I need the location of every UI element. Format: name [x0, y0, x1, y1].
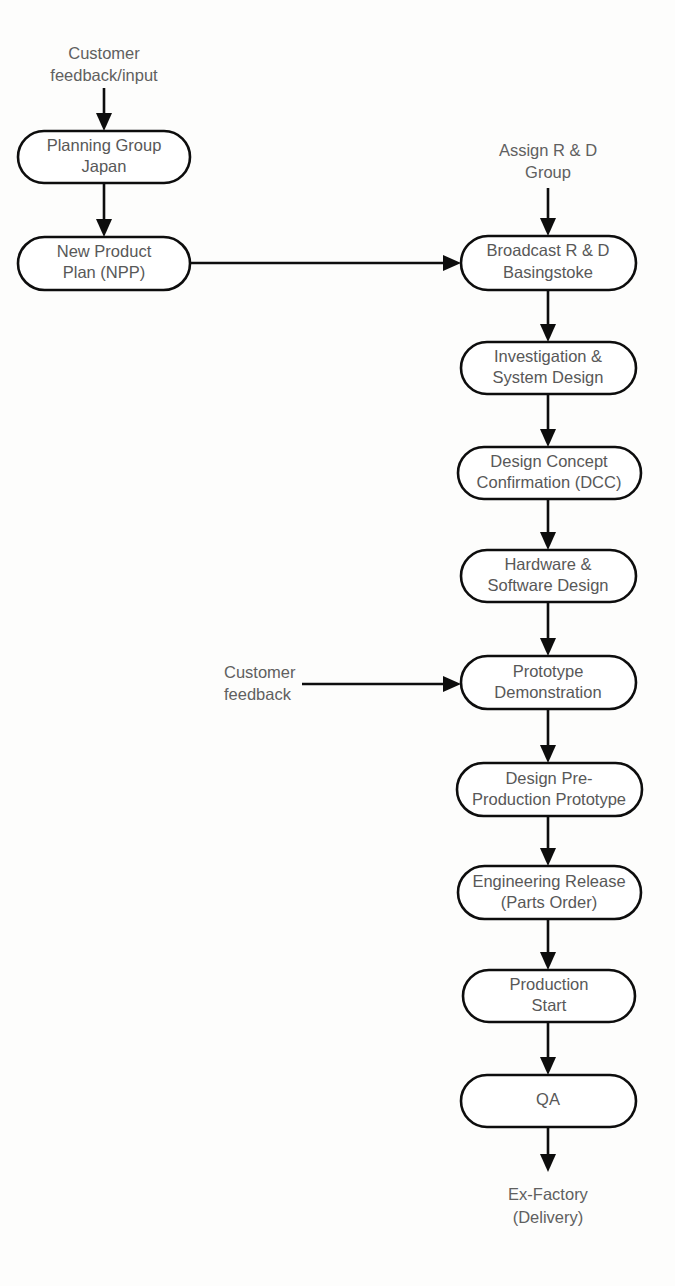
arrowhead-prototype-to-preproduction	[540, 745, 556, 763]
node-production-start-line1: Production	[510, 975, 589, 993]
label-customer-feedback-line1: Customer	[224, 663, 296, 681]
arrowhead-production-to-qa	[540, 1057, 556, 1075]
node-design-concept-confirmation-line2: Confirmation (DCC)	[477, 473, 622, 491]
node-engineering-release-line2: (Parts Order)	[501, 893, 597, 911]
node-investigation-system-design-line2: System Design	[493, 368, 604, 386]
label-assign-rd-group-line2: Group	[525, 163, 571, 181]
arrowhead-dcc-to-hardware	[540, 532, 556, 550]
node-new-product-plan-line1: New Product	[57, 242, 152, 260]
arrowhead-engineering-to-production	[540, 952, 556, 970]
node-qa-line1: QA	[536, 1090, 560, 1108]
label-customer-feedback-input-line1: Customer	[68, 44, 140, 62]
node-hardware-software-design-line1: Hardware &	[504, 555, 591, 573]
arrowhead-npp-to-broadcast	[443, 255, 461, 271]
node-prototype-demonstration-line1: Prototype	[513, 662, 584, 680]
label-customer-feedback-input-line2: feedback/input	[50, 66, 158, 84]
arrowhead-qa-to-exfactory	[540, 1154, 556, 1172]
node-new-product-plan-line2: Plan (NPP)	[63, 263, 146, 281]
node-design-pre-production-prototype-line1: Design Pre-	[505, 769, 592, 787]
arrowhead-broadcast-to-investigation	[540, 324, 556, 342]
arrowhead-planning-to-npp	[96, 219, 112, 237]
arrowhead-investigation-to-dcc	[540, 429, 556, 447]
node-broadcast-rd-basingstoke-line2: Basingstoke	[503, 263, 593, 281]
node-production-start-line2: Start	[532, 996, 567, 1014]
arrowhead-feedback-to-planning	[96, 113, 112, 131]
node-planning-group-japan-line1: Planning Group	[47, 136, 162, 154]
arrowhead-preproduction-to-engineering	[540, 848, 556, 866]
label-customer-feedback-line2: feedback	[224, 685, 292, 703]
node-planning-group-japan-line2: Japan	[82, 157, 127, 175]
label-assign-rd-group-line1: Assign R & D	[499, 141, 597, 159]
arrowhead-assign-to-broadcast	[540, 218, 556, 236]
node-engineering-release-line1: Engineering Release	[472, 872, 625, 890]
arrowhead-feedback-to-prototype	[443, 676, 461, 692]
label-ex-factory-line2: (Delivery)	[513, 1208, 584, 1226]
node-investigation-system-design-line1: Investigation &	[494, 347, 602, 365]
flowchart-diagram: Customer feedback/input Planning Group J…	[0, 0, 675, 1286]
node-design-pre-production-prototype-line2: Production Prototype	[472, 790, 626, 808]
label-ex-factory-line1: Ex-Factory	[508, 1185, 589, 1203]
node-hardware-software-design-line2: Software Design	[487, 576, 608, 594]
arrowhead-hardware-to-prototype	[540, 638, 556, 656]
node-prototype-demonstration-line2: Demonstration	[494, 683, 601, 701]
node-broadcast-rd-basingstoke-line1: Broadcast R & D	[487, 241, 610, 259]
node-design-concept-confirmation-line1: Design Concept	[490, 452, 608, 470]
